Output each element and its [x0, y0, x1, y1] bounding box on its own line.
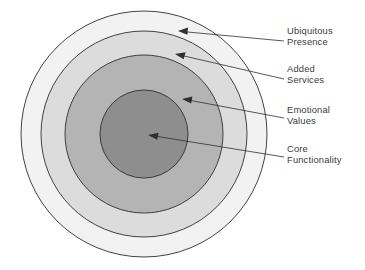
concentric-circles-figure: Ubiquitous Presence Added Services Emoti… [0, 0, 365, 270]
diagram-canvas: Ubiquitous Presence Added Services Emoti… [0, 0, 365, 270]
callout-label-emotional-values-line2: Values [287, 115, 316, 126]
callout-label-ubiquitous-presence-line2: Presence [287, 36, 328, 47]
ring-core-functionality [100, 90, 188, 178]
callout-label-core-functionality-line2: Functionality [287, 154, 342, 165]
callout-label-added-services-line2: Services [287, 74, 324, 85]
callout-label-added-services-line1: Added [287, 63, 315, 74]
callout-label-ubiquitous-presence-line1: Ubiquitous [287, 25, 333, 36]
callout-label-core-functionality-line1: Core [287, 143, 308, 154]
callout-label-emotional-values-line1: Emotional [287, 104, 330, 115]
